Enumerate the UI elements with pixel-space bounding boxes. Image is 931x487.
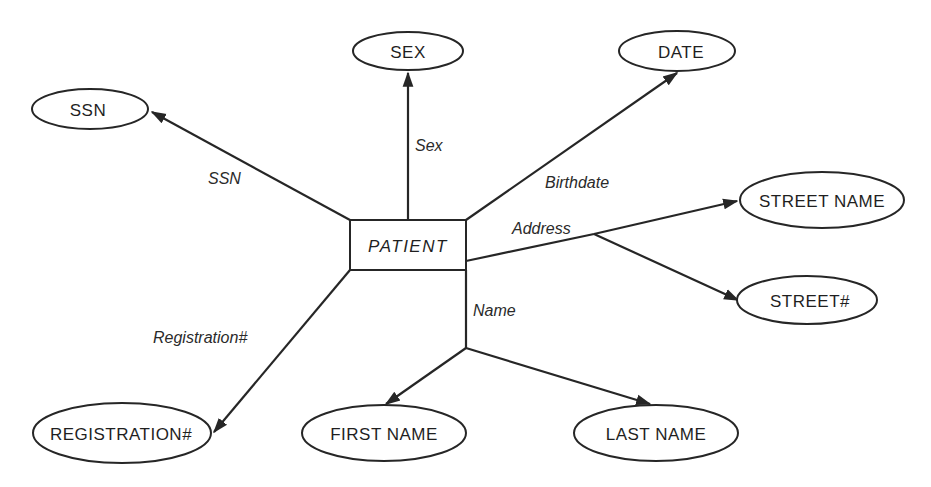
edge-address-street-no (594, 234, 738, 300)
attribute-first-name-label: FIRST NAME (330, 425, 438, 444)
edge-ssn (152, 112, 350, 220)
attribute-registration-label: REGISTRATION# (50, 425, 192, 444)
attribute-date-label: DATE (658, 43, 704, 62)
edge-address-street-name (594, 201, 737, 234)
attribute-date[interactable]: DATE (619, 31, 735, 71)
attribute-last-name-label: LAST NAME (606, 425, 707, 444)
edge-birthdate (466, 73, 677, 220)
er-diagram: PATIENT SSN SEX DATE STREET NAME STREET#… (0, 0, 931, 487)
entity-patient[interactable]: PATIENT (350, 220, 466, 270)
edge-registration (214, 270, 350, 432)
edge-label-registration: Registration# (153, 329, 248, 346)
entity-patient-label: PATIENT (368, 237, 448, 256)
edge-name-last (466, 348, 650, 404)
attribute-street-name-label: STREET NAME (759, 192, 885, 211)
edge-name-first (386, 348, 466, 404)
attribute-registration[interactable]: REGISTRATION# (33, 403, 211, 463)
attribute-sex[interactable]: SEX (353, 32, 463, 70)
attribute-street-name[interactable]: STREET NAME (740, 172, 904, 228)
attribute-street-no[interactable]: STREET# (737, 276, 877, 324)
attribute-street-no-label: STREET# (770, 292, 850, 311)
attribute-ssn-label: SSN (70, 101, 106, 120)
edge-address (466, 234, 594, 261)
attribute-last-name[interactable]: LAST NAME (574, 405, 738, 461)
edge-label-birthdate: Birthdate (545, 174, 609, 191)
attribute-sex-label: SEX (390, 43, 426, 62)
attribute-first-name[interactable]: FIRST NAME (302, 405, 466, 461)
edge-label-address: Address (511, 220, 571, 237)
edge-label-name: Name (473, 302, 516, 319)
edge-label-ssn: SSN (208, 170, 241, 187)
edge-label-sex: Sex (415, 137, 444, 154)
attribute-ssn[interactable]: SSN (32, 89, 148, 129)
